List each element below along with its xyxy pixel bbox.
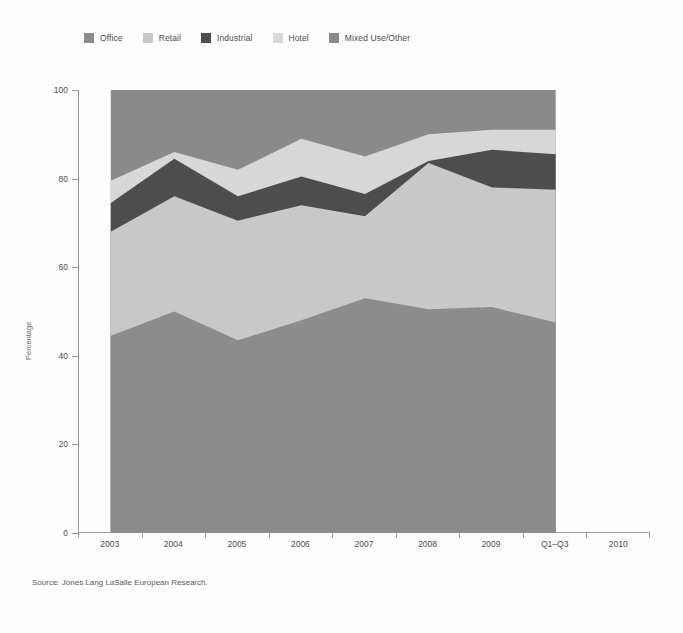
chart-page: OfficeRetailIndustrialHotelMixed Use/Oth…	[0, 0, 683, 633]
y-tick: 0	[0, 527, 78, 539]
x-tick-mark	[649, 533, 650, 538]
y-tick-label: 40	[59, 350, 68, 362]
y-tick-label: 20	[59, 438, 68, 450]
x-axis: 2003200420052006200720082009Q1–Q32010	[78, 533, 650, 555]
y-tick: 20	[0, 438, 78, 450]
y-tick-mark	[72, 90, 78, 91]
y-tick: 80	[0, 173, 78, 185]
legend-item-office: Office	[84, 33, 123, 43]
area-series-office	[111, 298, 556, 533]
x-tick-label: 2007	[355, 539, 374, 549]
legend-label: Mixed Use/Other	[345, 33, 410, 43]
x-tick-mark	[142, 533, 143, 538]
y-tick-mark	[72, 356, 78, 357]
legend-item-retail: Retail	[143, 33, 181, 43]
x-tick-mark	[332, 533, 333, 538]
legend-swatch-icon	[201, 33, 211, 43]
y-axis: Percentage 020406080100	[0, 90, 78, 533]
x-tick-mark	[459, 533, 460, 538]
x-tick-label: 2003	[100, 539, 119, 549]
y-tick: 60	[0, 261, 78, 273]
legend-label: Hotel	[289, 33, 309, 43]
x-tick-mark	[586, 533, 587, 538]
x-tick-label: 2006	[291, 539, 310, 549]
stacked-area-chart	[79, 90, 651, 533]
x-tick-label: 2004	[164, 539, 183, 549]
x-tick-mark	[396, 533, 397, 538]
x-tick-mark	[78, 533, 79, 538]
x-tick-mark	[523, 533, 524, 538]
legend-label: Industrial	[217, 33, 253, 43]
legend-label: Office	[100, 33, 123, 43]
y-tick-label: 60	[59, 261, 68, 273]
y-tick: 100	[0, 84, 78, 96]
legend-swatch-icon	[143, 33, 153, 43]
y-tick-label: 100	[54, 84, 68, 96]
y-tick-label: 0	[63, 527, 68, 539]
legend-label: Retail	[159, 33, 181, 43]
x-tick-label: 2008	[418, 539, 437, 549]
y-tick-label: 80	[59, 173, 68, 185]
chart-legend: OfficeRetailIndustrialHotelMixed Use/Oth…	[84, 30, 424, 46]
legend-item-industrial: Industrial	[201, 33, 253, 43]
legend-item-hotel: Hotel	[273, 33, 309, 43]
legend-swatch-icon	[273, 33, 283, 43]
legend-item-mixed-use-other: Mixed Use/Other	[329, 33, 410, 43]
x-tick-label: 2009	[482, 539, 501, 549]
source-note: Source: Jones Lang LaSalle European Rese…	[32, 578, 208, 587]
legend-swatch-icon	[84, 33, 94, 43]
x-tick-label: 2005	[227, 539, 246, 549]
x-tick-label: 2010	[609, 539, 628, 549]
y-tick-mark	[72, 444, 78, 445]
x-tick-label: Q1–Q3	[541, 539, 568, 549]
legend-swatch-icon	[329, 33, 339, 43]
x-tick-mark	[269, 533, 270, 538]
x-tick-mark	[205, 533, 206, 538]
y-tick: 40	[0, 350, 78, 362]
plot-area	[78, 90, 650, 533]
y-tick-mark	[72, 267, 78, 268]
y-tick-mark	[72, 179, 78, 180]
